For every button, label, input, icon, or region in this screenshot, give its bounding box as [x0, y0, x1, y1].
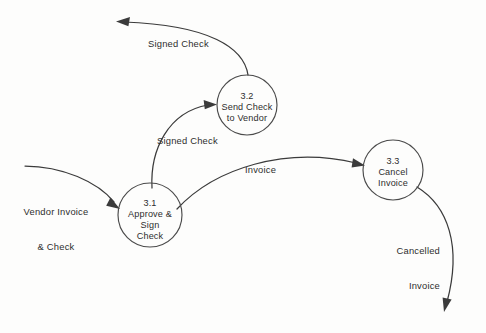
process-3-2-number: 3.2 — [240, 91, 253, 101]
flow-label-cancelled-invoice-line-2: Invoice — [355, 280, 440, 292]
process-3-1-name-line-2: Sign — [141, 220, 160, 230]
process-3-2-name-line-2: to Vendor — [227, 113, 267, 123]
flow-vendor-invoice-check-arrowhead — [106, 198, 120, 209]
flow-signed-check-out-arrowhead — [116, 17, 130, 26]
flow-label-cancelled-invoice: Cancelled Invoice — [355, 222, 440, 315]
process-3-2[interactable]: 3.2 Send Check to Vendor — [217, 75, 277, 135]
flow-cancelled-invoice-arrowhead — [443, 297, 452, 312]
process-3-2-name-line-1: Send Check — [221, 102, 272, 112]
flow-label-signed-check-to-send: Signed Check — [157, 135, 218, 147]
flow-label-vendor-invoice-check-line-1: Vendor Invoice — [6, 206, 106, 218]
process-3-1-name-line-1: Approve & — [128, 209, 172, 219]
process-3-3-number: 3.3 — [386, 156, 399, 166]
process-3-1-name-line-3: Check — [137, 231, 164, 241]
process-3-1-number: 3.1 — [143, 198, 156, 208]
flow-signed-check-to-send-arrowhead — [204, 100, 217, 109]
flow-label-vendor-invoice-check-line-2: & Check — [6, 241, 106, 253]
process-3-3-name-line-1: Cancel — [378, 167, 407, 177]
process-3-1[interactable]: 3.1 Approve & Sign Check — [118, 183, 182, 247]
flow-label-cancelled-invoice-line-1: Cancelled — [355, 245, 440, 257]
process-3-3[interactable]: 3.3 Cancel Invoice — [363, 140, 423, 200]
process-3-3-name-line-2: Invoice — [378, 178, 408, 188]
diagram-canvas: 3.1 Approve & Sign Check 3.2 Send Check … — [0, 0, 486, 333]
flow-label-vendor-invoice-check: Vendor Invoice & Check — [6, 183, 106, 276]
flow-label-invoice: Invoice — [245, 164, 276, 176]
flow-label-signed-check-out: Signed Check — [148, 38, 209, 50]
